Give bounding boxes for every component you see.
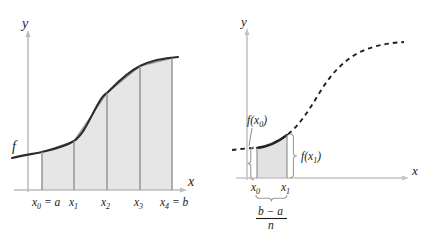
right-height-brace xyxy=(290,134,297,178)
left-x-tick-labels: x0 = a x1 x2 x3 x4 = b xyxy=(31,196,189,211)
right-y-axis-label: y xyxy=(239,14,247,29)
function-label-f: f xyxy=(12,139,18,154)
width-formula-numerator: b − a xyxy=(258,205,283,217)
width-formula: b − a n xyxy=(256,205,287,231)
right-x-axis-label: x xyxy=(411,163,418,178)
single-trapezoid-detail-panel: y x f(x0) f(x1) x0 x1 b − a n xyxy=(232,14,418,231)
detail-function-curve-dashed xyxy=(232,42,404,150)
tick-label-x0: x0 = a xyxy=(31,196,61,211)
tick-label-x3: x3 xyxy=(133,196,143,211)
left-y-axis-arrowhead xyxy=(25,30,30,37)
left-x-axis-arrowhead xyxy=(180,187,187,192)
right-x-tick-labels: x0 x1 xyxy=(250,181,290,196)
right-y-axis-arrowhead xyxy=(244,28,249,35)
left-height-leader-line xyxy=(249,128,252,146)
detail-tick-label-x1: x1 xyxy=(280,181,290,196)
trapezoid-fill-3 xyxy=(107,66,140,190)
composite-trapezoid-panel: y x f x0 = a x1 x2 x3 x4 = b xyxy=(12,16,195,211)
trapezoid-fill-4 xyxy=(140,58,172,190)
detail-tick-label-x0: x0 xyxy=(250,181,260,196)
width-formula-denominator: n xyxy=(268,219,274,231)
left-y-axis-label: y xyxy=(20,16,29,31)
trapezoid-fill-2 xyxy=(74,93,107,190)
tick-label-x4: x4 = b xyxy=(159,196,189,211)
trapezoidal-rule-figure: y x f x0 = a x1 x2 x3 x4 = b xyxy=(0,0,432,232)
width-brace xyxy=(256,195,287,201)
tick-label-x1: x1 xyxy=(68,196,78,211)
right-x-axis-arrowhead xyxy=(402,175,409,180)
left-x-axis-label: x xyxy=(187,174,195,189)
tick-label-x2: x2 xyxy=(100,196,110,211)
detail-trapezoid-fill xyxy=(257,135,287,178)
right-height-label: f(x1) xyxy=(301,150,321,165)
left-height-brace xyxy=(248,147,254,180)
left-height-label: f(x0) xyxy=(247,114,267,129)
